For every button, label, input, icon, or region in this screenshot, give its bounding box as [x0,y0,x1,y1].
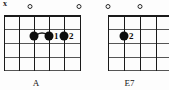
fret-line-nut [108,15,169,17]
chord-chart-sheet: x 1 2 A [0,0,169,90]
string-line-1 [108,15,109,71]
string-line-2 [124,15,125,71]
string-line-6 [80,15,81,71]
string-marker-muted-1: x [3,0,7,8]
finger-dot-string3-fret2 [30,32,39,41]
fret-line-2 [4,43,81,44]
fretboard-grid-e7: 2 [108,15,169,71]
fret-line-3 [108,57,169,58]
string-markers-a: x [0,0,85,14]
string-line-2 [19,15,20,71]
fret-line-4 [4,70,81,71]
string-marker-open-2 [28,4,33,9]
string-line-3 [34,15,35,71]
finger-dot-string4-fret2 [45,32,54,41]
string-markers-e7 [85,0,169,14]
fretboard-grid-a: 1 2 [4,15,81,71]
string-line-5 [64,15,65,71]
fret-line-4 [108,70,169,71]
finger-dot-string2-fret2 [120,32,129,41]
chord-diagram-a: x 1 2 A [0,0,85,90]
fret-line-nut [4,15,81,17]
fret-line-3 [4,57,81,58]
string-marker-open-6 [77,4,82,9]
chord-label-e7: E7 [99,78,160,88]
string-line-3 [140,15,141,71]
finger-number-1: 1 [54,32,59,41]
fret-line-1 [108,29,169,30]
finger-number-2: 2 [69,32,74,41]
string-line-4 [156,15,157,71]
string-line-1 [4,15,5,71]
chord-diagram-e7: 2 E7 [85,0,169,90]
finger-number-2: 2 [129,32,134,41]
string-line-4 [49,15,50,71]
chord-label-a: A [0,78,72,88]
string-marker-open-3 [138,4,143,9]
finger-dot-string5-fret2 [60,32,69,41]
fret-line-2 [108,43,169,44]
string-marker-open-1 [106,4,111,9]
